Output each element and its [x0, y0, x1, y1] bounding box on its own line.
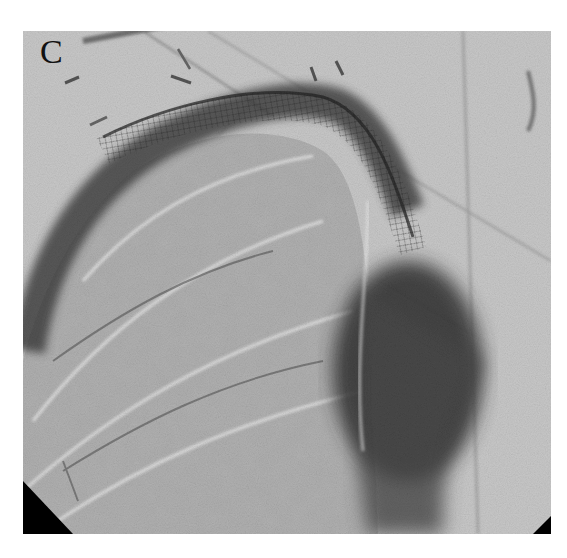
panel-label: C [40, 35, 63, 69]
xray-content [23, 31, 551, 534]
xray-image: C [23, 31, 551, 534]
xray-drawing [23, 31, 551, 534]
